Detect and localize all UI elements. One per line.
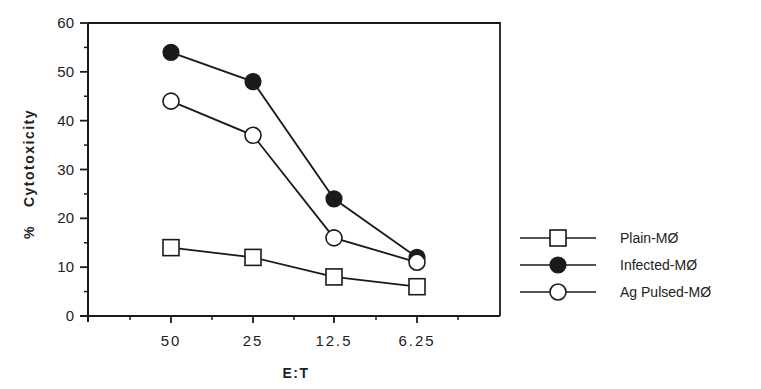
data-point-marker — [326, 230, 342, 246]
x-tick-label: 25 — [243, 332, 264, 349]
series-plain-m- — [163, 240, 425, 295]
series-ag-pulsed-m- — [163, 93, 425, 270]
y-tick-label: 60 — [57, 14, 74, 31]
x-axis-title: E:T — [282, 365, 309, 381]
legend-label: Plain-MØ — [620, 230, 678, 246]
data-point-marker — [409, 254, 425, 270]
series-line — [171, 248, 417, 287]
data-point-marker — [326, 191, 342, 207]
data-point-marker — [245, 127, 261, 143]
cytotoxicity-chart: 0102030405060 502512.56.25 % Cytotoxicit… — [0, 0, 761, 389]
y-tick-label: 10 — [57, 258, 74, 275]
legend-item: Ag Pulsed-MØ — [520, 284, 711, 300]
data-point-marker — [409, 279, 425, 295]
legend-marker-icon — [550, 284, 566, 300]
series-line — [171, 101, 417, 262]
legend: Plain-MØInfected-MØAg Pulsed-MØ — [520, 230, 711, 300]
y-tick-label: 40 — [57, 112, 74, 129]
y-tick-label: 0 — [66, 307, 74, 324]
legend-label: Ag Pulsed-MØ — [620, 284, 711, 300]
series-line — [171, 52, 417, 257]
legend-item: Plain-MØ — [520, 230, 678, 246]
plot-border — [88, 23, 500, 316]
x-axis: 502512.56.25 — [80, 316, 500, 349]
y-tick-label: 20 — [57, 209, 74, 226]
plot-frame — [88, 23, 500, 316]
legend-marker-icon — [550, 230, 566, 246]
data-point-marker — [163, 44, 179, 60]
data-point-marker — [163, 240, 179, 256]
data-series — [163, 44, 425, 294]
x-tick-label: 12.5 — [315, 332, 352, 349]
x-tick-label: 6.25 — [398, 332, 435, 349]
legend-label: Infected-MØ — [620, 257, 697, 273]
y-tick-label: 50 — [57, 63, 74, 80]
data-point-marker — [245, 249, 261, 265]
x-tick-label: 50 — [161, 332, 182, 349]
legend-item: Infected-MØ — [520, 257, 697, 273]
y-axis-percent: % — [21, 225, 37, 239]
legend-marker-icon — [550, 257, 566, 273]
y-tick-label: 30 — [57, 161, 74, 178]
y-axis: 0102030405060 — [57, 14, 88, 324]
y-axis-title: % Cytotoxicity — [21, 109, 37, 239]
series-infected-m- — [163, 44, 425, 265]
data-point-marker — [326, 269, 342, 285]
data-point-marker — [245, 74, 261, 90]
data-point-marker — [163, 93, 179, 109]
y-axis-title-text: Cytotoxicity — [21, 109, 37, 207]
